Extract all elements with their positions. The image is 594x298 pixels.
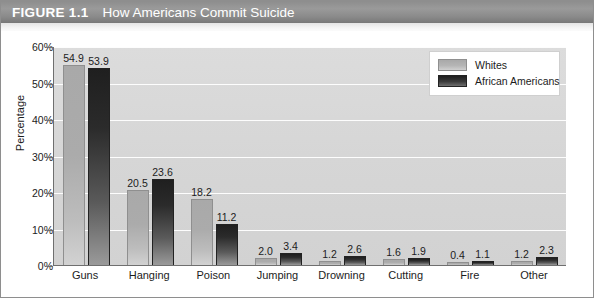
bar[interactable] (88, 68, 110, 265)
figure-container: FIGURE 1.1 How Americans Commit Suicide … (0, 0, 594, 298)
bar-column[interactable]: 2.6 (344, 47, 366, 265)
bar-column[interactable]: 20.5 (127, 47, 149, 265)
bar[interactable] (127, 190, 149, 265)
legend-item[interactable]: Whites (438, 57, 553, 73)
bar-value-label: 53.9 (88, 55, 108, 67)
bar[interactable] (191, 199, 213, 265)
bar-column[interactable]: 1.6 (383, 47, 405, 265)
bar-value-label: 20.5 (127, 177, 147, 189)
bar-column[interactable]: 1.2 (319, 47, 341, 265)
bar-column[interactable]: 23.6 (152, 47, 174, 265)
bar-column[interactable]: 3.4 (280, 47, 302, 265)
bar[interactable] (255, 258, 277, 265)
bar[interactable] (216, 224, 238, 265)
bar-group: 54.953.9 (54, 47, 118, 265)
bar-value-label: 1.1 (475, 248, 490, 260)
bar-value-label: 18.2 (191, 186, 211, 198)
bar-value-label: 2.6 (347, 243, 362, 255)
bar-value-label: 2.0 (258, 245, 273, 257)
bar-value-label: 23.6 (152, 166, 172, 178)
bar-column[interactable]: 54.9 (63, 47, 85, 265)
bar-value-label: 1.6 (386, 246, 401, 258)
bar[interactable] (63, 65, 85, 265)
bar[interactable] (536, 257, 558, 265)
legend-item[interactable]: African Americans (438, 73, 553, 89)
bar[interactable] (472, 261, 494, 265)
legend: WhitesAfrican Americans (429, 51, 560, 96)
bar[interactable] (408, 258, 430, 265)
bar[interactable] (280, 253, 302, 265)
legend-label: Whites (475, 59, 507, 71)
bar-group: 18.211.2 (182, 47, 246, 265)
legend-swatch (438, 59, 467, 71)
title-bar-shadow (1, 23, 593, 31)
bar-value-label: 54.9 (63, 52, 83, 64)
bar-value-label: 2.3 (539, 244, 554, 256)
bar-column[interactable]: 1.9 (408, 47, 430, 265)
bar[interactable] (152, 179, 174, 265)
figure-title-bar: FIGURE 1.1 How Americans Commit Suicide (1, 1, 593, 23)
bar-value-label: 11.2 (217, 211, 237, 223)
legend-swatch (438, 75, 467, 87)
x-axis-tick-label: Guns (53, 269, 117, 281)
bar[interactable] (511, 261, 533, 265)
bar-column[interactable]: 11.2 (216, 47, 238, 265)
y-axis-tick-mark (47, 266, 53, 267)
x-axis-tick-label: Cutting (374, 269, 438, 281)
x-axis-tick-label: Other (502, 269, 566, 281)
bar[interactable] (383, 259, 405, 265)
x-axis-tick-label: Poison (181, 269, 245, 281)
bar-value-label: 1.9 (411, 245, 426, 257)
x-axis-tick-label: Fire (438, 269, 502, 281)
bar-group: 2.03.4 (246, 47, 310, 265)
x-axis-tick-label: Hanging (117, 269, 181, 281)
bar-value-label: 1.2 (514, 248, 529, 260)
legend-label: African Americans (475, 75, 560, 87)
bar-value-label: 0.4 (450, 249, 465, 261)
bar[interactable] (344, 256, 366, 265)
figure-title: How Americans Commit Suicide (103, 5, 295, 20)
x-axis-tick-label: Jumping (245, 269, 309, 281)
bar-value-label: 1.2 (322, 248, 337, 260)
x-axis: GunsHangingPoisonJumpingDrowningCuttingF… (53, 269, 566, 281)
bar-column[interactable]: 53.9 (88, 47, 110, 265)
bar-column[interactable]: 18.2 (191, 47, 213, 265)
figure-number: FIGURE 1.1 (12, 5, 89, 20)
bar-value-label: 3.4 (283, 240, 298, 252)
bar-group: 20.523.6 (118, 47, 182, 265)
bar[interactable] (319, 261, 341, 265)
bar-group: 1.22.6 (310, 47, 374, 265)
x-axis-tick-label: Drowning (310, 269, 374, 281)
bar-column[interactable]: 2.0 (255, 47, 277, 265)
bar[interactable] (447, 262, 469, 265)
